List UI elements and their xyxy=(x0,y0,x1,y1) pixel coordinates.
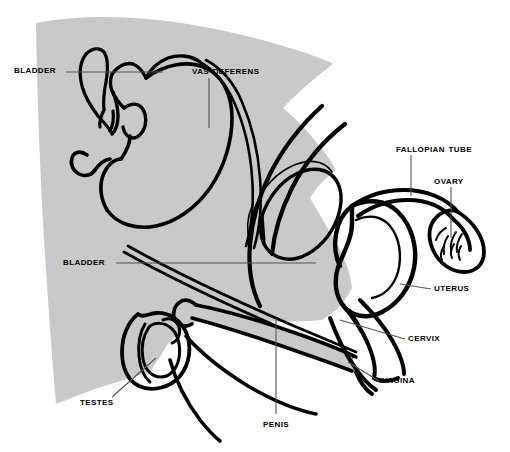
label-cervix: Cervix xyxy=(408,332,440,344)
label-testes: Testes xyxy=(80,396,114,408)
anatomy-diagram: Bladder Vas Deferens Fallopian Tube Ovar… xyxy=(0,0,510,452)
label-vagina: Vagina xyxy=(382,374,415,386)
label-ovary: Ovary xyxy=(434,175,464,187)
uterus-outline xyxy=(335,201,415,316)
ovary-outline xyxy=(430,210,485,272)
label-bladder-female: Bladder xyxy=(63,256,105,268)
uterine-cavity xyxy=(356,217,400,298)
label-fallopian-tube: Fallopian Tube xyxy=(396,143,472,155)
label-vas-deferens: Vas Deferens xyxy=(192,65,259,77)
label-penis: Penis xyxy=(263,418,289,430)
label-uterus: Uterus xyxy=(434,282,469,294)
leader-cervix xyxy=(340,320,405,339)
fimbriae-detail xyxy=(436,228,462,260)
label-bladder-male: Bladder xyxy=(14,64,56,76)
